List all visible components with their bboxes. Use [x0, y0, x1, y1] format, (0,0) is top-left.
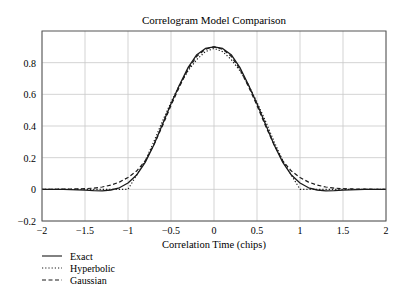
- x-tick-label: −1: [123, 225, 134, 236]
- chart: Correlogram Model Comparison −2−1.5−1−0.…: [0, 0, 408, 297]
- y-tick-label: 0: [31, 184, 36, 195]
- x-axis-ticks: −2−1.5−1−0.500.511.52: [37, 225, 389, 236]
- x-tick-label: −1.5: [76, 225, 94, 236]
- y-tick-label: 0.6: [24, 89, 37, 100]
- x-tick-label: 0.5: [251, 225, 264, 236]
- x-tick-label: 0: [212, 225, 217, 236]
- x-tick-label: −0.5: [162, 225, 180, 236]
- x-tick-label: −2: [37, 225, 48, 236]
- x-tick-label: 1.5: [337, 225, 350, 236]
- grid: [42, 31, 386, 221]
- y-tick-label: −0.2: [18, 216, 36, 227]
- legend-label-hyperbolic: Hyperbolic: [70, 263, 116, 274]
- x-tick-label: 1: [298, 225, 303, 236]
- y-tick-label: 0.2: [24, 153, 37, 164]
- x-tick-label: 2: [384, 225, 389, 236]
- chart-title: Correlogram Model Comparison: [142, 14, 287, 26]
- y-tick-label: 0.4: [24, 121, 37, 132]
- y-tick-label: 0.8: [24, 58, 37, 69]
- legend-label-gaussian: Gaussian: [70, 275, 107, 286]
- legend: ExactHyperbolicGaussian: [42, 251, 116, 286]
- x-axis-label: Correlation Time (chips): [162, 239, 266, 251]
- legend-label-exact: Exact: [70, 251, 93, 262]
- y-axis-ticks: −0.200.20.40.60.8: [18, 58, 36, 227]
